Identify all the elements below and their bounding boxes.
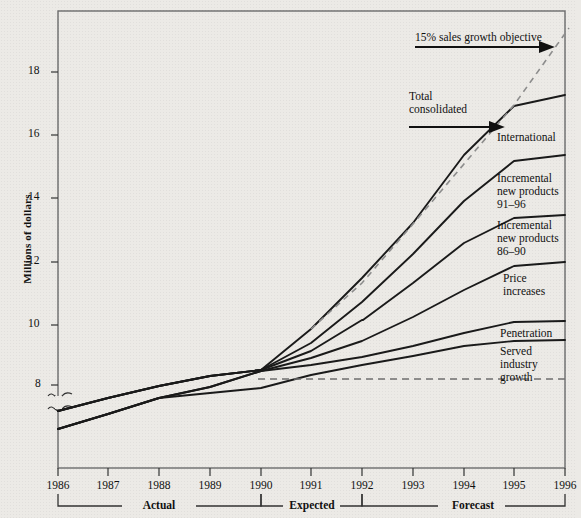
x-tick-1991: 1991: [289, 479, 333, 491]
series-label-inc-91-96-line3: 91–96: [497, 198, 526, 211]
x-tick-1989: 1989: [188, 479, 232, 491]
y-tick-14: 14: [28, 190, 40, 202]
series-label-price-increases-line1: Price: [503, 272, 527, 285]
period-label-actual: Actual: [128, 499, 190, 511]
period-label-forecast: Forecast: [440, 499, 506, 511]
period-label-expected: Expected: [282, 499, 342, 511]
x-tick-1987: 1987: [86, 479, 130, 491]
series-international: [58, 155, 565, 411]
plot-frame: [58, 11, 565, 468]
series-label-inc-91-96-line2: new products: [497, 185, 559, 198]
series-label-inc-86-90-line1: Incremental: [497, 219, 552, 232]
y-axis-break-mask: [55, 396, 62, 409]
y-tick-10: 10: [28, 317, 40, 329]
x-tick-1996: 1996: [543, 479, 581, 491]
y-axis-ticks: [51, 72, 58, 385]
x-tick-1992: 1992: [340, 479, 384, 491]
annotation-total-consolidated-line2: consolidated: [409, 103, 467, 116]
series-incremental-new-products-86-90: [58, 262, 565, 429]
series-label-served-line3: growth: [500, 371, 533, 384]
x-tick-1986: 1986: [36, 479, 80, 491]
series-penetration: [58, 340, 565, 429]
series-label-inc-86-90-line2: new products: [497, 232, 559, 245]
series-label-served-line1: Served: [500, 345, 532, 358]
x-axis-ticks: [58, 468, 565, 476]
x-tick-1993: 1993: [391, 479, 435, 491]
annotation-arrows: [409, 43, 552, 132]
x-tick-1988: 1988: [137, 479, 181, 491]
series-label-price-increases-line2: increases: [503, 285, 545, 298]
x-tick-1994: 1994: [442, 479, 486, 491]
series-label-inc-86-90-line3: 86–90: [497, 245, 526, 258]
series-label-inc-91-96-line1: Incremental: [497, 172, 552, 185]
y-tick-12: 12: [28, 254, 40, 266]
annotation-total-consolidated-line1: Total: [409, 90, 432, 103]
series-incremental-new-products-91-96: [58, 215, 565, 411]
series-total-consolidated: [58, 95, 565, 411]
y-tick-18: 18: [28, 64, 40, 76]
y-tick-8: 8: [35, 377, 41, 389]
x-tick-1995: 1995: [492, 479, 536, 491]
y-tick-16: 16: [28, 127, 40, 139]
annotation-objective: 15% sales growth objective: [415, 31, 542, 44]
series-label-international: International: [497, 131, 556, 144]
x-tick-1990: 1990: [239, 479, 283, 491]
series-label-penetration: Penetration: [500, 327, 552, 340]
series-label-served-line2: industry: [500, 358, 538, 371]
